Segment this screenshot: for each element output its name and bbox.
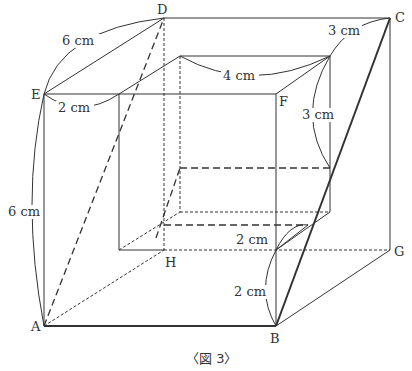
vertex-C: C xyxy=(395,10,405,25)
measure-ED: 6 cm xyxy=(62,33,94,48)
cuboid-diagram: D C E F A B G H 6 cm 6 cm 2 cm 4 cm 3 cm… xyxy=(0,0,412,371)
vertex-E: E xyxy=(31,87,41,102)
vertex-B: B xyxy=(270,331,280,346)
measure-E-inner: 2 cm xyxy=(58,100,90,115)
vertex-G: G xyxy=(394,244,404,259)
outer-cube-edges xyxy=(44,18,390,326)
figure-caption: 〈図 3〉 xyxy=(186,351,237,366)
edge-BC-diagonal xyxy=(276,18,390,326)
geometry-figure: D C E F A B G H 6 cm 6 cm 2 cm 4 cm 3 cm… xyxy=(0,0,412,371)
vertex-H: H xyxy=(165,255,176,270)
vertex-A: A xyxy=(30,319,41,334)
inner-hidden-edges xyxy=(119,56,330,250)
vertex-F: F xyxy=(279,94,288,109)
vertex-D: D xyxy=(157,2,167,17)
inner-cutout-edges xyxy=(119,56,330,326)
measure-B-lower: 2 cm xyxy=(234,284,266,299)
measure-top-inner: 4 cm xyxy=(223,68,255,83)
cut-plane-hidden-lines xyxy=(44,18,330,326)
measurement-arcs xyxy=(32,18,390,326)
measure-EA: 6 cm xyxy=(8,204,40,219)
measure-C-side: 3 cm xyxy=(302,107,334,122)
measure-B-upper: 2 cm xyxy=(236,232,268,247)
outer-hidden-edges xyxy=(44,18,390,326)
measure-C-top: 3 cm xyxy=(328,23,360,38)
